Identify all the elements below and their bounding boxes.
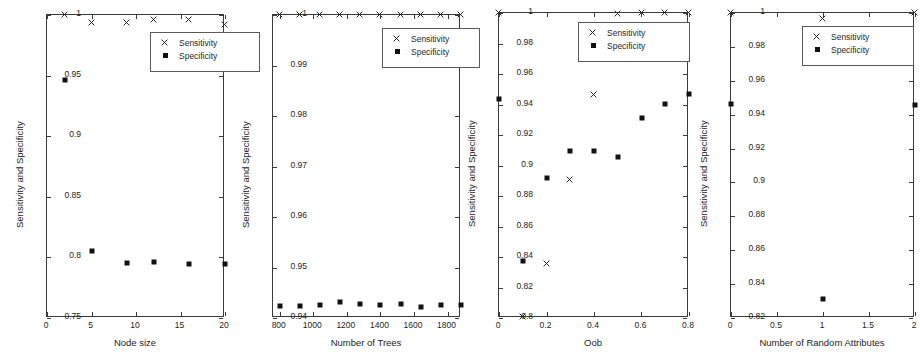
legend-item-specificity: Specificity	[155, 49, 254, 62]
x-axis-tick-label: 2	[894, 321, 920, 330]
x-axis-title: Oob	[493, 337, 693, 348]
legend-symbol-specificity	[583, 43, 603, 48]
y-tick-mark-right	[683, 318, 687, 319]
y-axis-tick-label: 0.85	[41, 191, 81, 200]
y-axis-tick-label: 1	[267, 9, 307, 18]
x-axis-tick-label: 0	[26, 321, 66, 330]
specificity-data-point	[151, 260, 156, 265]
y-tick-mark-right	[909, 216, 913, 217]
legend-label-sensitivity: Sensitivity	[603, 28, 645, 38]
chart-panel-3: 0.80.820.840.860.880.90.920.940.960.9810…	[498, 0, 728, 360]
x-axis-tick-label: 0.4	[573, 321, 613, 330]
y-tick-mark-right	[219, 257, 223, 258]
x-tick-mark	[641, 312, 642, 316]
y-axis-tick-label: 1	[41, 9, 81, 18]
specificity-data-point	[297, 304, 302, 309]
y-axis-tick-label: 0.88	[493, 190, 533, 199]
y-axis-tick-label: 0.9	[41, 130, 81, 139]
specificity-data-point	[821, 296, 826, 301]
legend-label-sensitivity: Sensitivity	[827, 32, 869, 42]
y-axis-title: Sensitivity and Specificity	[698, 120, 709, 227]
specificity-data-point	[913, 103, 918, 108]
y-axis-tick-label: 0.9	[725, 176, 765, 185]
specificity-data-point	[418, 304, 423, 309]
x-tick-mark-top	[414, 15, 415, 19]
x-marker-icon	[161, 39, 169, 47]
chart-legend: SensitivitySpecificity	[802, 26, 914, 66]
x-tick-mark	[347, 312, 348, 316]
x-tick-mark-top	[448, 15, 449, 19]
x-tick-mark	[380, 312, 381, 316]
legend-label-sensitivity: Sensitivity	[175, 38, 217, 48]
x-tick-mark	[313, 312, 314, 316]
legend-item-specificity: Specificity	[387, 45, 474, 58]
legend-item-sensitivity: Sensitivity	[807, 30, 908, 43]
x-tick-mark	[181, 312, 182, 316]
y-tick-mark-right	[683, 105, 687, 106]
legend-symbol-specificity	[807, 47, 827, 52]
x-tick-mark	[915, 312, 916, 316]
sensitivity-data-point	[819, 15, 827, 23]
x-axis-tick-label: 0.6	[621, 321, 661, 330]
y-axis-title: Sensitivity and Specificity	[14, 121, 25, 228]
x-axis-tick-label: 1800	[427, 321, 467, 330]
legend-item-sensitivity: Sensitivity	[583, 26, 684, 39]
sensitivity-data-point	[123, 19, 131, 27]
y-tick-mark-right	[909, 182, 913, 183]
chart-panel-1: 0.750.80.850.90.95105101520Node sizeSens…	[46, 0, 264, 360]
legend-label-sensitivity: Sensitivity	[407, 34, 449, 44]
x-tick-mark-top	[777, 13, 778, 17]
specificity-data-point	[729, 102, 734, 107]
square-marker-icon	[815, 47, 820, 52]
y-tick-mark-right	[909, 81, 913, 82]
sensitivity-data-point	[417, 11, 425, 19]
sensitivity-data-point	[356, 11, 364, 19]
chart-legend: SensitivitySpecificity	[150, 32, 260, 72]
x-axis-tick-label: 20	[204, 321, 244, 330]
y-tick-mark-right	[909, 115, 913, 116]
y-tick-mark-right	[909, 318, 913, 319]
x-axis-tick-label: 1.5	[848, 321, 888, 330]
y-tick-mark-right	[683, 166, 687, 167]
sensitivity-data-point	[316, 11, 324, 19]
sensitivity-data-point	[566, 176, 574, 184]
x-tick-mark	[547, 312, 548, 316]
y-axis-tick-label: 0.98	[493, 38, 533, 47]
specificity-data-point	[398, 301, 403, 306]
x-marker-icon	[589, 29, 597, 37]
multi-panel-scatter-figure: 0.750.80.850.90.95105101520Node sizeSens…	[0, 0, 920, 360]
y-axis-tick-label: 0.86	[725, 244, 765, 253]
specificity-data-point	[438, 303, 443, 308]
y-tick-mark-right	[455, 318, 459, 319]
square-marker-icon	[395, 49, 400, 54]
y-tick-mark-right	[909, 250, 913, 251]
x-tick-mark	[777, 312, 778, 316]
chart-panel-4: 0.820.840.860.880.90.920.940.960.98100.5…	[730, 0, 920, 360]
legend-label-specificity: Specificity	[603, 41, 645, 51]
x-axis-tick-label: 0.8	[668, 321, 708, 330]
y-axis-tick-label: 0.95	[41, 70, 81, 79]
y-tick-mark-right	[219, 15, 223, 16]
specificity-data-point	[338, 300, 343, 305]
x-marker-icon	[813, 33, 821, 41]
y-axis-tick-label: 0.82	[493, 282, 533, 291]
sensitivity-data-point	[376, 11, 384, 19]
x-tick-mark-top	[181, 15, 182, 19]
x-axis-title: Number of Trees	[266, 337, 466, 348]
x-axis-tick-label: 0.5	[756, 321, 796, 330]
y-axis-tick-label: 0.88	[725, 210, 765, 219]
x-tick-mark	[869, 312, 870, 316]
y-axis-tick-label: 0.95	[267, 262, 307, 271]
y-tick-mark-right	[683, 196, 687, 197]
sensitivity-data-point	[150, 16, 158, 24]
specificity-data-point	[378, 303, 383, 308]
y-tick-mark-right	[909, 149, 913, 150]
legend-symbol-specificity	[155, 53, 175, 58]
y-axis-tick-label: 0.99	[267, 60, 307, 69]
sensitivity-data-point	[638, 9, 646, 17]
legend-symbol-sensitivity	[387, 35, 407, 43]
specificity-data-point	[459, 303, 464, 308]
x-tick-mark-top	[313, 15, 314, 19]
sensitivity-data-point	[543, 260, 551, 268]
specificity-data-point	[592, 149, 597, 154]
